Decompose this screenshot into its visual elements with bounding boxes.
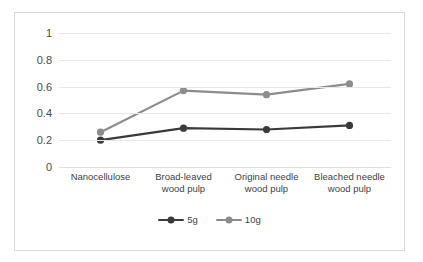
x-tick-label-line: Original needle <box>226 171 307 183</box>
x-tick-label: Nanocellulose <box>59 171 142 195</box>
x-tick-label: Original needlewood pulp <box>225 171 308 195</box>
plot-area: 00.20.40.60.81 <box>59 33 391 167</box>
x-tick-label: Broad-leavedwood pulp <box>142 171 225 195</box>
x-tick-label-line: Nanocellulose <box>60 171 141 183</box>
x-tick-label-line: wood pulp <box>226 183 307 195</box>
series-plot <box>59 33 391 167</box>
x-tick-label-line: Bleached needle <box>309 171 390 183</box>
data-point-marker <box>180 125 187 132</box>
y-tick-label: 0 <box>46 162 52 173</box>
gridline-y-0.8 <box>59 60 391 61</box>
x-tick-label-line: wood pulp <box>309 183 390 195</box>
gridline-y-0.2 <box>59 140 391 141</box>
gridline-y-0.4 <box>59 113 391 114</box>
gridline-y-0.6 <box>59 87 391 88</box>
gridline-y-1 <box>59 33 391 34</box>
data-point-marker <box>263 91 270 98</box>
data-point-marker <box>97 129 104 136</box>
data-point-marker <box>180 87 187 94</box>
y-tick-label: 0.4 <box>37 108 52 119</box>
legend-marker-icon <box>158 215 184 225</box>
data-point-marker <box>263 126 270 133</box>
gridline-y-0 <box>59 167 391 168</box>
legend-marker-icon <box>216 215 242 225</box>
legend-label: 5g <box>187 215 198 225</box>
y-tick-label: 0.2 <box>37 135 52 146</box>
series-line-10g <box>101 84 350 132</box>
legend-item-5g[interactable]: 5g <box>158 215 198 225</box>
chart-figure: 00.20.40.60.81 NanocelluloseBroad-leaved… <box>14 12 405 251</box>
data-point-marker <box>346 122 353 129</box>
y-tick-label: 0.6 <box>37 81 52 92</box>
chart-legend: 5g10g <box>15 215 404 225</box>
legend-item-10g[interactable]: 10g <box>216 215 261 225</box>
x-tick-label: Bleached needlewood pulp <box>308 171 391 195</box>
y-tick-label: 0.8 <box>37 54 52 65</box>
x-tick-label-line: wood pulp <box>143 183 224 195</box>
x-tick-label-line: Broad-leaved <box>143 171 224 183</box>
legend-label: 10g <box>245 215 261 225</box>
x-axis: NanocelluloseBroad-leavedwood pulpOrigin… <box>59 171 391 195</box>
series-line-5g <box>101 125 350 140</box>
y-tick-label: 1 <box>46 28 52 39</box>
